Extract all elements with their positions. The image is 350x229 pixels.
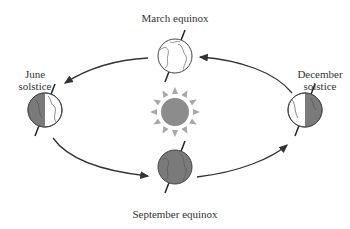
label-march-equinox: March equinox xyxy=(125,12,225,24)
globe-september-equinox-icon xyxy=(158,141,192,193)
label-june-line2: solstice xyxy=(10,80,60,92)
globe-march-equinox-icon xyxy=(158,30,192,82)
seasons-diagram xyxy=(0,0,350,229)
label-june-line1: June xyxy=(10,68,60,80)
arrow-june-to-september xyxy=(53,138,148,176)
label-september-equinox: September equinox xyxy=(115,208,235,220)
sun-icon xyxy=(150,87,200,137)
arrow-march-to-june xyxy=(65,58,148,83)
label-december-line1: December xyxy=(290,68,350,80)
label-june-solstice: June solstice xyxy=(10,68,60,92)
arrow-december-to-march xyxy=(200,57,292,93)
label-december-solstice: December solstice xyxy=(290,68,350,92)
arrow-september-to-december xyxy=(197,145,287,177)
label-december-line2: solstice xyxy=(290,80,350,92)
